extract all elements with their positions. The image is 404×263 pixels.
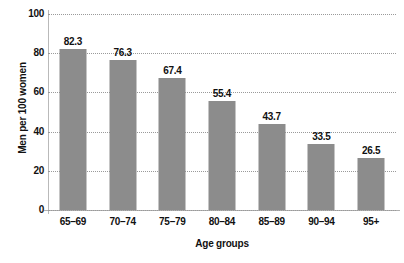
bar xyxy=(59,49,86,210)
y-axis-tick-label: 60 xyxy=(4,87,44,97)
bar xyxy=(208,101,235,210)
x-axis-tick-labels: 65–6970–7475–7980–8485–8990–9495+ xyxy=(48,216,396,232)
bar-slot: 55.4 xyxy=(197,14,247,210)
x-axis-tick-label: 75–79 xyxy=(147,216,197,228)
bar-slot: 26.5 xyxy=(346,14,396,210)
bar xyxy=(159,78,186,210)
x-axis-tick-label: 65–69 xyxy=(48,216,98,228)
bar-slot: 43.7 xyxy=(247,14,297,210)
y-axis-tick-label: 80 xyxy=(4,48,44,58)
x-axis-tick-label: 95+ xyxy=(346,216,396,228)
bar-slot: 76.3 xyxy=(98,14,148,210)
y-axis-tick-label: 100 xyxy=(4,9,44,19)
bar-value-label: 55.4 xyxy=(213,88,231,99)
bar-chart: Men per 100 women 020406080100 82.376.36… xyxy=(0,0,404,263)
bar xyxy=(358,158,385,210)
bars-layer: 82.376.367.455.443.733.526.5 xyxy=(48,14,396,210)
bar-value-label: 26.5 xyxy=(362,145,380,156)
x-axis-tick-label: 80–84 xyxy=(197,216,247,228)
x-axis-title: Age groups xyxy=(48,238,396,249)
x-axis-tick-label: 90–94 xyxy=(297,216,347,228)
y-axis-tick-label: 20 xyxy=(4,166,44,176)
y-axis-tick-label: 0 xyxy=(4,205,44,215)
bar-value-label: 67.4 xyxy=(163,65,181,76)
bar-slot: 82.3 xyxy=(48,14,98,210)
bar-value-label: 76.3 xyxy=(113,47,131,58)
bar-value-label: 82.3 xyxy=(64,36,82,47)
bar-slot: 67.4 xyxy=(147,14,197,210)
x-axis-tick-label: 85–89 xyxy=(247,216,297,228)
x-axis-tick-label: 70–74 xyxy=(98,216,148,228)
bar xyxy=(109,60,136,210)
gridline xyxy=(48,210,396,211)
y-axis-tick-label: 40 xyxy=(4,127,44,137)
bar-value-label: 33.5 xyxy=(312,131,330,142)
bar-slot: 33.5 xyxy=(297,14,347,210)
bar xyxy=(258,124,285,210)
bar xyxy=(308,144,335,210)
bar-value-label: 43.7 xyxy=(263,111,281,122)
y-axis-tick-labels: 020406080100 xyxy=(0,14,44,210)
